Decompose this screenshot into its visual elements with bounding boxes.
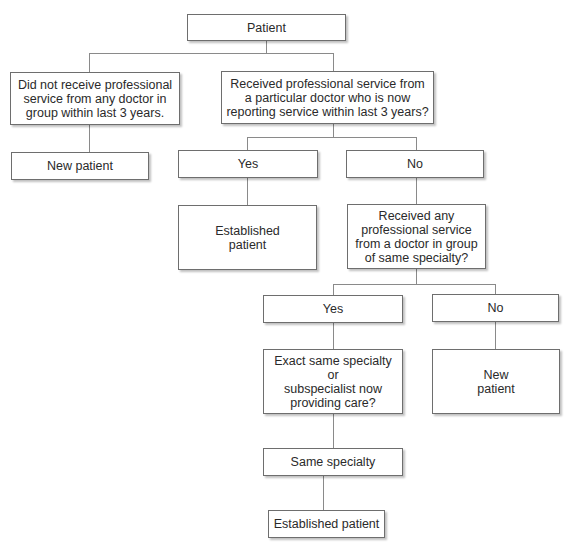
node-received-any-service-label: Received any professional service from a… — [355, 209, 477, 265]
connector-to-no-1 — [416, 137, 417, 150]
node-did-not-receive-service-label: Did not receive professional service fro… — [18, 78, 172, 120]
node-patient-label: Patient — [247, 21, 286, 35]
node-new-patient-1: New patient — [11, 152, 149, 180]
node-received-particular-doctor-label: Received professional service from a par… — [226, 77, 428, 119]
node-received-particular-doctor: Received professional service from a par… — [221, 71, 434, 124]
connector-to-no-2 — [495, 284, 496, 294]
node-new-patient-1-label: New patient — [47, 159, 113, 173]
node-new-patient-2-label: New patient — [477, 368, 515, 396]
connector-to-yes-2 — [333, 284, 334, 295]
node-established-patient-1: Established patient — [178, 205, 317, 270]
connector-to-no-service — [89, 53, 90, 72]
connector-yes-no-branch — [247, 137, 416, 138]
node-same-specialty: Same specialty — [263, 448, 403, 476]
connector-root-down — [266, 41, 267, 53]
connector-root-branch — [89, 53, 333, 54]
node-established-patient-1-label: Established patient — [215, 224, 280, 252]
node-yes-1-label: Yes — [238, 157, 258, 171]
node-yes-2: Yes — [263, 295, 403, 323]
connector-yes-1-to-established — [247, 178, 248, 205]
node-no-1-label: No — [407, 157, 423, 171]
node-patient: Patient — [187, 14, 346, 41]
node-same-specialty-label: Same specialty — [291, 455, 376, 469]
node-established-patient-2: Established patient — [268, 510, 385, 538]
connector-to-received-particular — [333, 53, 334, 71]
node-new-patient-2: New patient — [432, 349, 560, 414]
node-exact-same-specialty: Exact same specialty or subspecialist no… — [263, 349, 403, 414]
node-established-patient-2-label: Established patient — [274, 517, 380, 531]
connector-yes-2-to-exact-same — [333, 323, 334, 349]
node-no-2-label: No — [488, 301, 504, 315]
connector-received-particular-down — [333, 124, 334, 137]
node-did-not-receive-service: Did not receive professional service fro… — [10, 72, 180, 125]
connector-received-any-down — [416, 269, 417, 284]
node-yes-2-label: Yes — [323, 302, 343, 316]
node-exact-same-specialty-label: Exact same specialty or subspecialist no… — [268, 354, 398, 410]
connector-yes2-no2-branch — [333, 284, 495, 285]
node-no-2: No — [432, 294, 559, 322]
connector-no-service-to-new-patient — [89, 125, 90, 152]
connector-same-specialty-to-established — [323, 476, 324, 510]
connector-no-2-to-new-patient — [495, 322, 496, 349]
node-received-any-service: Received any professional service from a… — [347, 204, 486, 269]
node-yes-1: Yes — [178, 150, 318, 178]
connector-exact-same-to-same-specialty — [333, 414, 334, 448]
connector-no-1-to-received-any — [416, 178, 417, 204]
connector-to-yes-1 — [247, 137, 248, 150]
node-no-1: No — [346, 150, 484, 178]
